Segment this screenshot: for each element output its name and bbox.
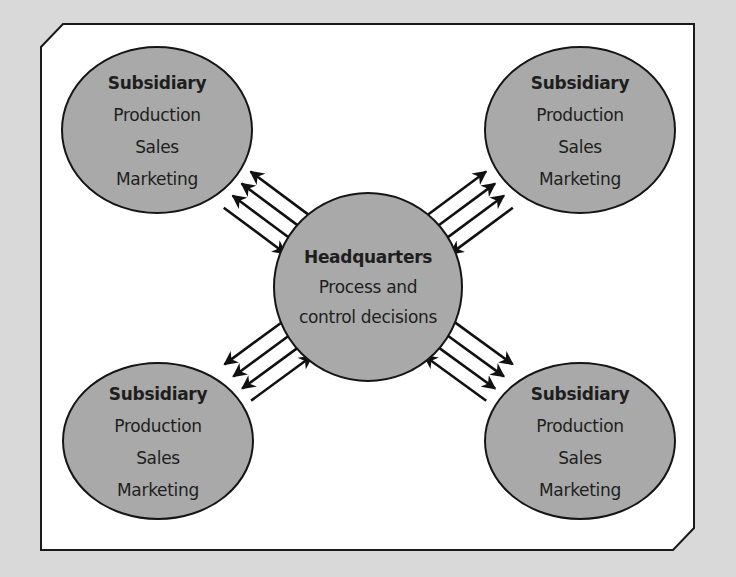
subsidiary-function: Production: [536, 410, 623, 442]
subsidiary-function: Sales: [558, 131, 602, 163]
subsidiary-title: Subsidiary: [108, 67, 206, 99]
subsidiary-top-left: Subsidiary Production Sales Marketing: [62, 56, 252, 206]
headquarters-line-1: Process and: [319, 272, 418, 302]
subsidiary-top-right: Subsidiary Production Sales Marketing: [485, 56, 675, 206]
subsidiary-function: Marketing: [539, 474, 621, 506]
subsidiary-function: Production: [114, 410, 201, 442]
subsidiary-title: Subsidiary: [531, 67, 629, 99]
subsidiary-function: Sales: [135, 131, 179, 163]
subsidiary-function: Marketing: [539, 163, 621, 195]
headquarters: Headquarters Process and control decisio…: [274, 240, 462, 334]
diagram-stage: Subsidiary Production Sales Marketing Su…: [0, 0, 736, 577]
subsidiary-bottom-right: Subsidiary Production Sales Marketing: [485, 367, 675, 517]
headquarters-line-2: control decisions: [299, 302, 437, 332]
subsidiary-function: Production: [113, 99, 200, 131]
subsidiary-function: Marketing: [117, 474, 199, 506]
subsidiary-function: Production: [536, 99, 623, 131]
headquarters-title: Headquarters: [304, 242, 432, 272]
subsidiary-title: Subsidiary: [109, 378, 207, 410]
subsidiary-function: Sales: [136, 442, 180, 474]
subsidiary-bottom-left: Subsidiary Production Sales Marketing: [63, 367, 253, 517]
subsidiary-function: Marketing: [116, 163, 198, 195]
subsidiary-function: Sales: [558, 442, 602, 474]
subsidiary-title: Subsidiary: [531, 378, 629, 410]
